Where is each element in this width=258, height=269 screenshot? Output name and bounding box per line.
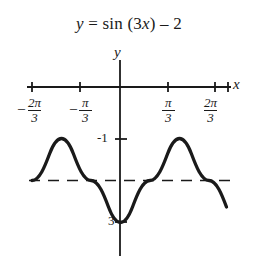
sine-graph-figure: y = sin (3x) – 2 y x -1 3 – 2π 3 – π 3 π… (0, 0, 258, 269)
graph-canvas (0, 0, 258, 269)
